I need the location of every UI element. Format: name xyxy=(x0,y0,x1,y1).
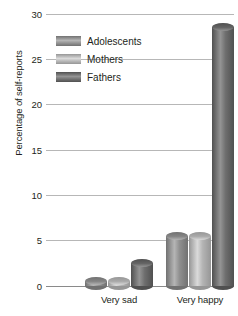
x-tick-label-very-happy: Very happy xyxy=(160,294,238,305)
legend-label-mothers: Mothers xyxy=(87,52,123,67)
bar-very-happy-fathers xyxy=(212,23,234,286)
bar-very-sad-adolescents xyxy=(85,277,107,286)
bar-body xyxy=(166,236,188,286)
gridline-20 xyxy=(46,104,234,105)
y-tick-label-5: 5 xyxy=(20,235,42,246)
legend-swatch-adolescents xyxy=(56,36,81,46)
bar-very-sad-mothers xyxy=(108,277,130,286)
gridline-10 xyxy=(46,195,234,196)
legend-item-adolescents[interactable]: Adolescents xyxy=(56,34,152,49)
y-tick-label-10: 10 xyxy=(20,190,42,201)
gridline-30 xyxy=(46,14,234,15)
y-tick-label-25: 25 xyxy=(20,54,42,65)
bar-top-ellipse xyxy=(108,277,130,285)
bar-very-sad-fathers xyxy=(131,259,153,286)
chart-legend: AdolescentsMothersFathers xyxy=(56,34,152,88)
gridline-15 xyxy=(46,150,234,151)
legend-label-fathers: Fathers xyxy=(87,70,121,85)
chart-container: Percentage of self-reports 051015202530 … xyxy=(0,0,238,316)
bar-top-ellipse xyxy=(85,277,107,285)
bar-top-ellipse xyxy=(131,259,153,267)
bar-body xyxy=(189,236,211,286)
legend-swatch-mothers xyxy=(56,54,81,64)
bar-top-ellipse xyxy=(166,232,188,240)
y-axis-tick-labels: 051015202530 xyxy=(20,0,42,316)
y-tick-label-20: 20 xyxy=(20,99,42,110)
legend-swatch-fathers xyxy=(56,72,81,82)
legend-label-adolescents: Adolescents xyxy=(87,34,141,49)
y-tick-label-15: 15 xyxy=(20,145,42,156)
legend-item-fathers[interactable]: Fathers xyxy=(56,70,152,85)
bar-very-happy-mothers xyxy=(189,232,211,286)
bar-body xyxy=(212,27,234,286)
bar-very-happy-adolescents xyxy=(166,232,188,286)
y-tick-label-30: 30 xyxy=(20,9,42,20)
y-tick-label-0: 0 xyxy=(20,281,42,292)
bar-top-ellipse xyxy=(189,232,211,240)
legend-item-mothers[interactable]: Mothers xyxy=(56,52,152,67)
x-tick-label-very-sad: Very sad xyxy=(79,294,159,305)
